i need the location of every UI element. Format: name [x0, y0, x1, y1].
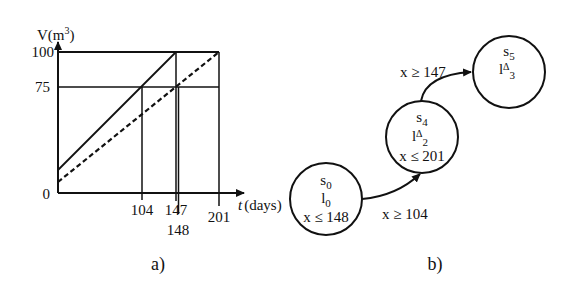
x-axis-label: t(days)	[238, 197, 282, 214]
state-s4: s4 lΔ2 x ≤ 201	[386, 101, 458, 173]
panel-a-chart: V(m3) 100 75 0 104 147 148 201 t(days) a…	[32, 25, 282, 275]
svg-text:s0: s0	[320, 172, 332, 191]
state-s5: s5 lΔ3	[473, 36, 545, 108]
invariant-s4: x ≤ 201	[399, 148, 445, 164]
figure: V(m3) 100 75 0 104 147 148 201 t(days) a…	[0, 0, 567, 293]
y-axis-label: V(m3)	[37, 25, 75, 44]
caption-a: a)	[151, 254, 165, 275]
caption-b: b)	[428, 254, 443, 275]
y-tick-100: 100	[32, 44, 55, 60]
y-tick-75: 75	[35, 79, 50, 95]
transition-s0-s4	[362, 174, 420, 199]
svg-text:s5: s5	[503, 43, 515, 62]
svg-text:l0: l0	[321, 190, 331, 209]
x-tick-201: 201	[208, 209, 231, 225]
x-tick-147: 147	[165, 202, 188, 218]
y-tick-0: 0	[43, 186, 51, 202]
series-solid	[58, 52, 176, 170]
x-tick-104: 104	[131, 202, 154, 218]
svg-text:lΔ2: lΔ2	[412, 128, 428, 148]
svg-text:s4: s4	[416, 109, 428, 128]
invariant-s0: x ≤ 148	[303, 209, 349, 225]
x-tick-148: 148	[167, 222, 190, 238]
panel-b-automaton: x ≥ 104 x ≥ 147 s0 l0 x ≤ 148 s4 lΔ2 x ≤…	[290, 36, 545, 275]
svg-text:lΔ3: lΔ3	[499, 61, 516, 81]
state-s0: s0 l0 x ≤ 148	[290, 163, 362, 235]
guard-s0-s4: x ≥ 104	[382, 206, 428, 222]
guard-s4-s5: x ≥ 147	[400, 64, 446, 80]
series-dashed	[58, 52, 219, 182]
